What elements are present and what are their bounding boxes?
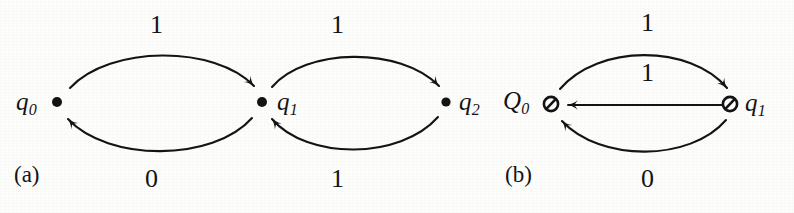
panel-a-edges	[68, 55, 439, 151]
state-node-Q0	[544, 97, 558, 111]
edge-q1-Q0-symbol-0	[562, 120, 726, 152]
state-node-q1-b	[723, 97, 737, 111]
panel-caption-a: (a)	[14, 163, 40, 186]
edge-label-q0-q1: 1	[150, 12, 163, 38]
edge-label-Q0-q1-top: 1	[641, 10, 654, 36]
edge-q0-q1-symbol-1	[70, 55, 254, 88]
panel-a-nodes	[52, 97, 451, 107]
edge-label-q1-Q0-mid: 1	[641, 60, 654, 86]
state-label-q1: q1	[277, 89, 298, 114]
edge-q1-q0-symbol-0	[68, 118, 252, 151]
edge-q2-q1-symbol-1	[272, 117, 438, 150]
state-node-q1	[257, 97, 267, 107]
edge-label-q1-Q0-bottom: 0	[641, 166, 654, 192]
edge-q1-q2-symbol-1	[272, 57, 439, 87]
state-label-q1-b: q1	[745, 90, 766, 115]
state-node-q2	[441, 97, 450, 106]
panel-caption-b: (b)	[505, 163, 532, 186]
state-label-q0: q0	[16, 89, 37, 114]
edge-label-q1-q2: 1	[331, 12, 344, 38]
transition-diagram-canvas	[0, 0, 794, 213]
state-node-q0	[52, 97, 62, 107]
figure-container: q0 q1 q2 1 0 1 1 (a) Q0 q1 1 1 0 (b)	[0, 0, 794, 213]
edge-label-q1-q0: 0	[145, 166, 158, 192]
state-label-q2: q2	[459, 89, 480, 114]
panel-b-nodes	[544, 97, 737, 111]
edge-label-q2-q1: 1	[331, 166, 344, 192]
state-label-Q0: Q0	[503, 88, 529, 113]
